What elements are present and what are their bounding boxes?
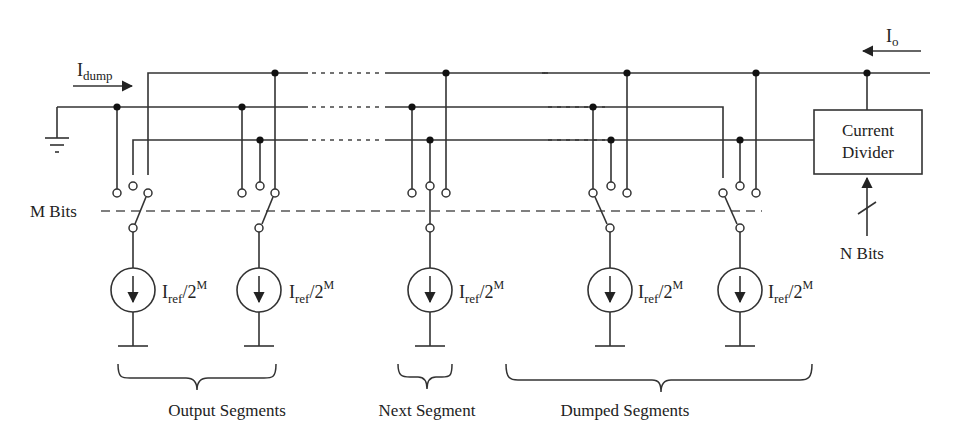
m-bits-label: M Bits bbox=[30, 202, 77, 221]
switch-terminal bbox=[752, 189, 760, 197]
divider-rail bbox=[133, 140, 814, 175]
switch-terminal bbox=[442, 189, 450, 197]
source-value-label: Iref/2M bbox=[289, 278, 334, 306]
segment-2: Iref/2M bbox=[237, 69, 334, 346]
dump-rail bbox=[57, 107, 723, 178]
group-label: Dumped Segments bbox=[561, 401, 690, 420]
switch-terminal bbox=[607, 182, 615, 190]
switch-pole bbox=[129, 224, 137, 232]
switch-pole bbox=[255, 224, 263, 232]
i-dump-arrow: Idump bbox=[73, 60, 132, 86]
source-value-label: Iref/2M bbox=[638, 278, 683, 306]
switch-terminal bbox=[719, 189, 727, 197]
switch-terminal bbox=[426, 182, 434, 190]
source-value-label: Iref/2M bbox=[162, 278, 207, 306]
svg-text:Idump: Idump bbox=[77, 60, 113, 83]
i-dump-subscript: dump bbox=[83, 68, 113, 83]
segment-4: Iref/2M bbox=[588, 69, 683, 346]
switch-terminal bbox=[144, 189, 152, 197]
output-rail bbox=[148, 73, 930, 175]
dac-schematic: Idump Io bbox=[0, 0, 960, 438]
switch-terminal bbox=[589, 189, 597, 197]
switch-terminal bbox=[129, 182, 137, 190]
segment-5: Iref/2M bbox=[718, 69, 813, 346]
switch-pole bbox=[426, 224, 434, 232]
switch-pole bbox=[736, 224, 744, 232]
switch-terminal bbox=[256, 182, 264, 190]
svg-text:Io: Io bbox=[886, 26, 899, 49]
current-divider-block: Current Divider N Bits bbox=[814, 69, 922, 263]
junction-dot bbox=[863, 69, 870, 76]
divider-label-line1: Current bbox=[842, 121, 894, 140]
ground-icon bbox=[45, 138, 69, 152]
source-value-label: Iref/2M bbox=[459, 278, 504, 306]
brace-output-segments: Output Segments bbox=[118, 364, 286, 420]
source-value-label: Iref/2M bbox=[768, 278, 813, 306]
brace-dumped-segments: Dumped Segments bbox=[506, 364, 812, 420]
switch-pole bbox=[606, 224, 614, 232]
switch-terminal bbox=[271, 189, 279, 197]
segment-3: Iref/2M bbox=[408, 69, 504, 346]
switch-terminal bbox=[623, 189, 631, 197]
group-label: Next Segment bbox=[379, 401, 476, 420]
brace-next-segment: Next Segment bbox=[379, 364, 476, 420]
switch-terminal bbox=[408, 189, 416, 197]
switch-terminal bbox=[113, 189, 121, 197]
group-label: Output Segments bbox=[168, 401, 286, 420]
switch-terminal bbox=[736, 182, 744, 190]
switch-terminal bbox=[238, 189, 246, 197]
n-bits-label: N Bits bbox=[840, 244, 884, 263]
i-out-subscript: o bbox=[892, 34, 899, 49]
i-out-arrow: Io bbox=[863, 26, 921, 51]
divider-label-line2: Divider bbox=[842, 143, 894, 162]
